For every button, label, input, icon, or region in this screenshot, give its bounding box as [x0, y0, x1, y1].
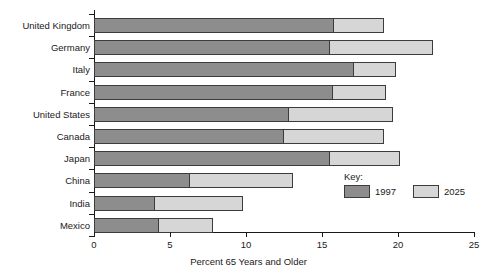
bar-segment-1997 — [94, 218, 159, 233]
x-axis-tick — [398, 232, 399, 237]
category-label-japan: Japan — [0, 153, 90, 164]
bar-segment-1997 — [94, 62, 354, 77]
y-axis-tick — [89, 192, 94, 193]
x-axis-tick — [170, 232, 171, 237]
bar-segment-1997 — [94, 40, 330, 55]
x-axis-tick-label: 0 — [79, 239, 109, 250]
legend: Key: 1997 2025 — [336, 171, 488, 213]
x-axis-tick-label: 10 — [231, 239, 261, 250]
category-label-france: France — [0, 87, 90, 98]
y-axis-tick — [89, 125, 94, 126]
category-label-united-states: United States — [0, 109, 90, 120]
y-axis-tick — [89, 169, 94, 170]
x-axis-tick-label: 5 — [155, 239, 185, 250]
category-label-italy: Italy — [0, 64, 90, 75]
x-axis-tick — [94, 232, 95, 237]
legend-swatch-2025 — [413, 185, 439, 198]
category-label-mexico: Mexico — [0, 220, 90, 231]
category-label-germany: Germany — [0, 42, 90, 53]
bar-segment-1997 — [94, 173, 190, 188]
legend-label-2025: 2025 — [444, 186, 465, 197]
legend-swatch-1997 — [344, 185, 370, 198]
x-axis-tick-label: 15 — [307, 239, 337, 250]
x-axis-tick — [322, 232, 323, 237]
x-axis-tick — [474, 232, 475, 237]
legend-label-1997: 1997 — [375, 186, 396, 197]
category-label-india: India — [0, 198, 90, 209]
x-axis-tick — [246, 232, 247, 237]
bar-segment-1997 — [94, 196, 155, 211]
y-axis-tick — [89, 147, 94, 148]
bar-segment-1997 — [94, 18, 334, 33]
category-label-united-kingdom: United Kingdom — [0, 20, 90, 31]
y-axis-tick — [89, 36, 94, 37]
bar-segment-1997 — [94, 151, 330, 166]
bar-segment-1997 — [94, 85, 333, 100]
bar-segment-1997 — [94, 129, 284, 144]
x-axis-tick-label: 20 — [383, 239, 413, 250]
y-axis-tick — [89, 58, 94, 59]
x-axis-tick-label: 25 — [459, 239, 489, 250]
x-axis-title: Percent 65 Years and Older — [0, 256, 497, 267]
y-axis-tick — [89, 214, 94, 215]
y-axis-tick — [89, 14, 94, 15]
y-axis-tick — [89, 81, 94, 82]
bar-segment-1997 — [94, 107, 289, 122]
y-axis-tick — [89, 103, 94, 104]
legend-title: Key: — [344, 171, 363, 182]
category-label-canada: Canada — [0, 131, 90, 142]
bar-chart: 0510152025 United KingdomGermanyItalyFra… — [0, 0, 497, 273]
category-label-china: China — [0, 175, 90, 186]
